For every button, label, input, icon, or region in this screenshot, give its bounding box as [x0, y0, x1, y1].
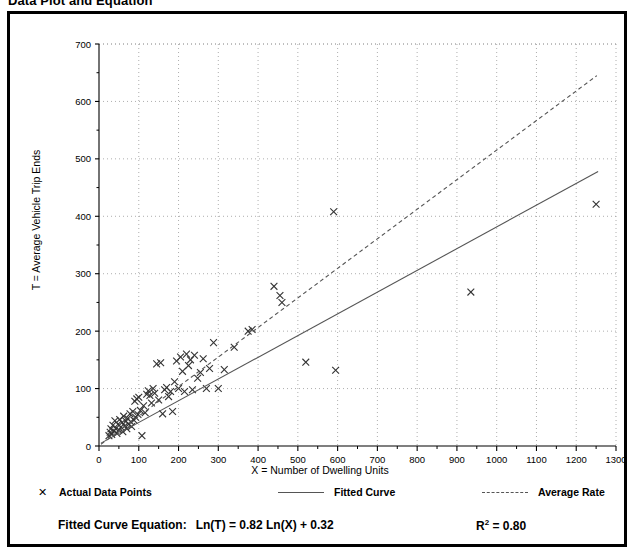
svg-text:500: 500	[75, 153, 91, 164]
svg-text:400: 400	[75, 211, 91, 222]
equation-label: Fitted Curve Equation:	[58, 518, 187, 532]
r-exponent: 2	[485, 518, 489, 527]
legend-item-average-rate: Average Rate	[482, 486, 605, 498]
chart-area: 0100200300400500600700010020030040050060…	[10, 14, 630, 484]
svg-text:300: 300	[75, 268, 91, 279]
svg-text:100: 100	[75, 383, 91, 394]
legend-item-actual-data-points: ✕ Actual Data Points	[36, 486, 152, 498]
x-axis-title: X = Number of Dwelling Units	[10, 464, 630, 476]
legend-label: Average Rate	[538, 486, 605, 498]
legend-label: Actual Data Points	[59, 486, 152, 498]
chart-legend: ✕ Actual Data Points Fitted Curve Averag…	[10, 482, 630, 510]
r-symbol: R	[476, 519, 485, 533]
page-title: Data Plot and Equation	[8, 0, 152, 8]
svg-text:700: 700	[75, 39, 91, 50]
equation-expression: Ln(T) = 0.82 Ln(X) + 0.32	[196, 518, 334, 532]
y-axis-title: T = Average Vehicle Trip Ends	[30, 120, 42, 320]
chart-panel: 0100200300400500600700010020030040050060…	[7, 11, 627, 547]
svg-text:200: 200	[75, 326, 91, 337]
dashed-line-icon	[482, 486, 528, 498]
scatter-plot: 0100200300400500600700010020030040050060…	[10, 14, 630, 484]
r-squared-value: R2 = 0.80	[476, 518, 526, 533]
svg-text:0: 0	[86, 441, 91, 452]
legend-item-fitted-curve: Fitted Curve	[278, 486, 395, 498]
legend-label: Fitted Curve	[334, 486, 395, 498]
cross-marker-icon: ✕	[36, 486, 49, 498]
svg-text:600: 600	[75, 96, 91, 107]
r-value: = 0.80	[492, 519, 526, 533]
solid-line-icon	[278, 486, 324, 498]
fitted-curve-equation: Fitted Curve Equation:Ln(T) = 0.82 Ln(X)…	[58, 518, 334, 532]
equation-footer: Fitted Curve Equation:Ln(T) = 0.82 Ln(X)…	[10, 512, 630, 546]
